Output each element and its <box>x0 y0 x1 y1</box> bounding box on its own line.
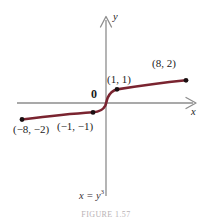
graph-plot-area <box>0 0 212 219</box>
point-label-neg8-neg2: (−8, −2) <box>13 124 49 135</box>
curve-x-equals-y-cubed <box>22 80 186 119</box>
equation-base: x = y <box>79 190 101 201</box>
data-point-neg1-neg1 <box>91 110 96 115</box>
origin-label: 0 <box>91 88 97 100</box>
equation-exponent: 3 <box>101 188 104 195</box>
point-label-neg1-neg1: (−1, −1) <box>57 121 93 132</box>
x-axis-label: x <box>191 107 196 118</box>
figure-container: (8, 2) (1, 1) (−1, −1) (−8, −2) 0 y x x … <box>0 0 212 219</box>
data-point-1-1 <box>115 87 120 92</box>
point-label-8-2: (8, 2) <box>152 58 176 69</box>
equation-label: x = y3 <box>79 189 104 201</box>
figure-caption: FIGURE 1.57 <box>0 211 212 219</box>
data-point-8-2 <box>184 78 189 83</box>
point-label-1-1: (1, 1) <box>107 74 131 85</box>
data-point-neg8-neg2 <box>20 117 25 122</box>
y-axis-label: y <box>113 12 118 23</box>
